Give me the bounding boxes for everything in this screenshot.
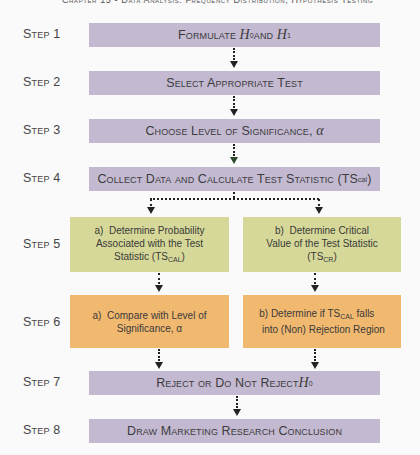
connector-6a-7 [158, 349, 160, 361]
step-1-box: Formulate H0 and H1 [89, 23, 380, 47]
close-paren: ) [182, 251, 185, 262]
connector-5b-6b [314, 273, 316, 284]
step-2-box: Select Appropriate Test [89, 71, 380, 95]
step-6a-prefix: a) [93, 310, 102, 321]
step-4-label: Step 4 [23, 171, 60, 185]
arrow-down-icon [147, 207, 155, 214]
step-5a-line2: Associated with the Test [94, 237, 204, 250]
step-6-label: Step 6 [23, 315, 60, 329]
arrow-down-icon [315, 207, 323, 214]
step-6a-line2: Significance, α [93, 322, 207, 335]
step-6b-line2: into (Non) Rejection Region [262, 324, 385, 335]
step-7-label: Step 7 [23, 375, 60, 389]
step-6b-line1: Determine if TS [271, 308, 340, 319]
step-4-text: Collect Data and Calculate Test Statisti… [97, 172, 358, 186]
step-8-box: Draw Marketing Research Conclusion [89, 419, 380, 443]
step-4-box: Collect Data and Calculate Test Statisti… [89, 167, 380, 191]
step-6b-prefix: b) [259, 308, 268, 319]
arrow-down-icon [155, 362, 163, 369]
arrow-down-icon [311, 285, 319, 292]
arrow-down-icon [233, 409, 241, 416]
step-5a-line3: Statistic (TS [114, 251, 168, 262]
step-6a-box: a) Compare with Level of Significance, α [70, 295, 229, 348]
alpha-symbol: α [316, 123, 323, 139]
h0-subscript: 0 [309, 380, 313, 387]
connector-5a-6a [158, 273, 160, 284]
arrow-down-icon [230, 109, 238, 116]
h1-symbol: H [277, 27, 287, 43]
arrow-down-icon [230, 157, 238, 164]
arrow-down-icon [230, 61, 238, 68]
connector-1-2 [233, 48, 235, 60]
connector-3-4 [233, 144, 235, 156]
step-6b-box: b) Determine if TSCAL falls into (Non) R… [243, 295, 401, 348]
close-paren: ) [367, 172, 371, 186]
step-5b-line3: (TS [307, 251, 323, 262]
connector-split-left [150, 199, 152, 206]
step-8-label: Step 8 [23, 423, 60, 437]
step-1-text: Formulate [178, 28, 236, 42]
connector-split-right [318, 199, 320, 206]
step-6a-line1: Compare with Level of [107, 310, 207, 321]
cal-subscript: cal [358, 176, 367, 183]
step-5b-box: b) Determine Critical Value of the Test … [243, 217, 401, 272]
connector-2-3 [233, 96, 235, 108]
step-3-text: Choose Level of Significance, [145, 124, 312, 138]
step-5b-prefix: b) [275, 225, 284, 236]
close-paren: ) [333, 251, 336, 262]
step-6b-line1-suffix: falls [354, 308, 375, 319]
h0-symbol: H [240, 27, 250, 43]
step-3-label: Step 3 [23, 123, 60, 137]
step-5a-box: a) Determine Probability Associated with… [70, 217, 229, 272]
step-1-label: Step 1 [23, 27, 60, 41]
step-5a-line1: Determine Probability [109, 225, 205, 236]
arrow-down-icon [311, 362, 319, 369]
step-2-label: Step 2 [23, 75, 60, 89]
step-7-box: Reject or Do Not Reject H0 [89, 371, 380, 395]
step-5a-prefix: a) [94, 225, 103, 236]
step-5-label: Step 5 [23, 237, 60, 251]
cal-subscript: CAL [168, 256, 182, 263]
arrow-down-icon [155, 285, 163, 292]
connector-7-8 [236, 396, 238, 408]
cr-subscript: CR [323, 256, 333, 263]
connector-6b-7 [314, 349, 316, 361]
step-5b-line1: Determine Critical [289, 225, 368, 236]
step-5b-line2: Value of the Test Statistic [266, 237, 377, 250]
chapter-header: Chapter 15 • Data Analysis: Frequency Di… [62, 0, 420, 7]
split-connector [150, 198, 319, 200]
step-3-box: Choose Level of Significance, α [89, 119, 380, 143]
cal-subscript: CAL [340, 313, 354, 320]
h1-subscript: 1 [287, 32, 291, 39]
step-7-text: Reject or Do Not Reject [156, 376, 298, 390]
and-text: and [254, 28, 273, 42]
h0-symbol: H [299, 375, 309, 391]
